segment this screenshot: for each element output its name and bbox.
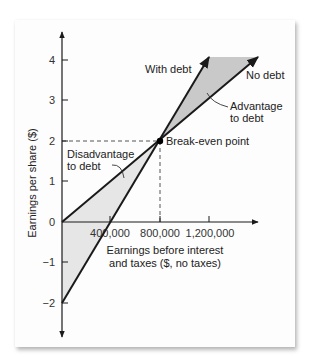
advantage-label-line1: Advantage (230, 100, 283, 112)
x-tick-label: 1,200,000 (186, 227, 235, 239)
y-tick-label: 4 (49, 54, 55, 66)
disadvantage-label-line1: Disadvantage (67, 148, 134, 160)
break-even-label: Break-even point (166, 135, 249, 147)
x-tick-label: 800,000 (140, 227, 180, 239)
y-tick-label: 3 (49, 94, 55, 106)
disadvantage-label-line2: to debt (67, 160, 101, 172)
y-tick-label: 1 (49, 175, 55, 187)
x-tick-label: 400,000 (90, 227, 130, 239)
x-ticks (110, 216, 209, 222)
x-axis-title-line1: Earnings before interest (107, 244, 224, 256)
y-tick-label: 0 (49, 216, 55, 228)
ebit-eps-chart: 4 3 2 1 0 −1 −2 400,000 800,000 1,200,00… (0, 0, 313, 362)
y-tick-label: 2 (49, 135, 55, 147)
y-tick-label: −2 (42, 297, 55, 309)
break-even-point (157, 138, 163, 144)
no-debt-label: No debt (246, 69, 285, 81)
y-axis-title: Earnings per share ($) (26, 128, 38, 237)
y-tick-label: −1 (42, 256, 55, 268)
with-debt-label: With debt (145, 63, 191, 75)
advantage-label-line2: to debt (230, 112, 264, 124)
x-axis-title-line2: and taxes ($, no taxes) (109, 257, 221, 269)
